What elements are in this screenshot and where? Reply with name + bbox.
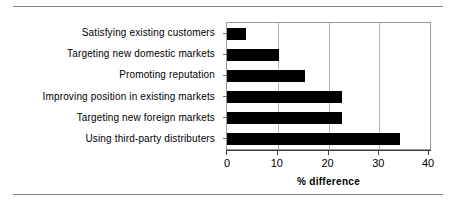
x-tick-label: 40 [422,157,434,170]
x-axis [226,150,431,156]
bar [227,133,400,145]
x-axis-tick-labels: 0 10 20 30 40 [226,157,431,171]
bar [227,49,279,61]
x-tick-label: 10 [271,157,283,170]
bar-row [227,23,430,44]
x-axis-line [226,150,431,151]
x-tick-label: 30 [372,157,384,170]
category-tick [223,75,227,76]
bar-series [227,23,430,149]
figure-container: Satisfying existing customers Targeting … [0,0,455,202]
x-tick [378,150,379,155]
bar-row [227,65,430,86]
category-tick [223,117,227,118]
x-tick-label: 20 [321,157,333,170]
category-label: Using third-party distributers [8,129,220,150]
bar-row [227,86,430,107]
category-label: Promoting reputation [8,65,220,86]
bar [227,112,342,124]
category-axis-labels: Satisfying existing customers Targeting … [8,22,220,150]
category-tick [223,54,227,55]
x-axis-title: % difference [226,176,431,187]
x-tick [428,150,429,155]
category-label: Targeting new foreign markets [8,107,220,128]
x-tick [226,150,227,155]
bar [227,70,305,82]
x-tick [277,150,278,155]
bar [227,91,342,103]
bar [227,28,246,40]
x-tick-label: 0 [224,157,230,170]
plot-area [226,22,431,150]
x-tick [328,150,329,155]
category-tick [223,33,227,34]
category-label: Improving position in existing markets [8,86,220,107]
category-label: Targeting new domestic markets [8,43,220,64]
top-rule [13,6,443,7]
category-tick [223,96,227,97]
bar-row [227,107,430,128]
bar-chart: Satisfying existing customers Targeting … [0,10,455,195]
category-label: Satisfying existing customers [8,22,220,43]
bar-row [227,44,430,65]
category-tick [223,138,227,139]
bar-row [227,128,430,149]
